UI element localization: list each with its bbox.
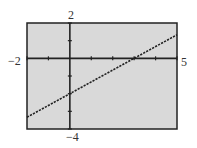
ymin-label: −4 <box>66 131 79 143</box>
xmin-label: −2 <box>8 55 21 67</box>
ymax-label: 2 <box>68 9 74 21</box>
xmax-label: 5 <box>181 56 187 68</box>
graph-window <box>0 0 197 148</box>
